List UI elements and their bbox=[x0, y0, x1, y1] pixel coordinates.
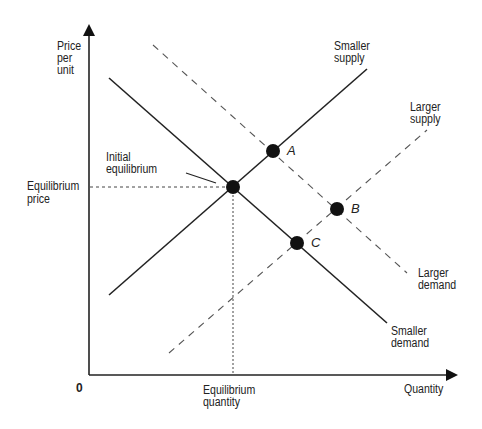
smaller-demand-label-line2: demand bbox=[391, 337, 429, 349]
point-b-label: B bbox=[351, 201, 360, 216]
smaller-supply-curve bbox=[109, 69, 367, 295]
point-a bbox=[266, 144, 280, 158]
smaller-supply-label-line2: supply bbox=[334, 52, 365, 64]
y-axis-arrow-icon bbox=[83, 24, 95, 36]
equilibrium-price-label-line2: price bbox=[27, 193, 50, 205]
x-axis-arrow-icon bbox=[446, 369, 458, 381]
y-axis-label-line3: unit bbox=[57, 64, 74, 76]
larger-demand-label-line2: demand bbox=[418, 279, 456, 291]
equilibrium-quantity-label-line2: quantity bbox=[203, 396, 240, 408]
point-initial-equilibrium bbox=[226, 180, 240, 194]
point-a-label: A bbox=[287, 143, 296, 158]
initial-equilibrium-pointer bbox=[186, 173, 216, 183]
initial-equilibrium-label-line2: equilibrium bbox=[106, 163, 157, 175]
equilibrium-price-label-line1: Equilibrium bbox=[27, 180, 79, 192]
x-axis-label: Quantity bbox=[404, 383, 443, 395]
point-b bbox=[330, 202, 344, 216]
smaller-demand-curve bbox=[109, 78, 387, 323]
larger-demand-curve bbox=[153, 45, 407, 273]
larger-supply-label-line2: supply bbox=[410, 113, 441, 125]
origin-label: 0 bbox=[76, 381, 83, 395]
point-c-label: C bbox=[311, 235, 320, 250]
point-c bbox=[290, 236, 304, 250]
